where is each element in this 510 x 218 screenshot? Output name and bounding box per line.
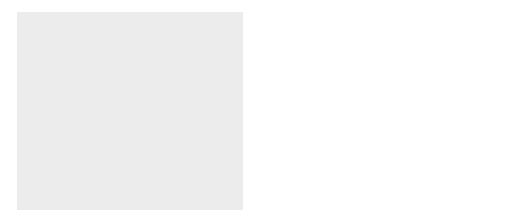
diagram-graphics — [0, 0, 510, 218]
glucose-alanine-cycle-diagram — [0, 0, 510, 218]
